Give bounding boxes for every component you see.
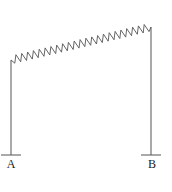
support-label-b: B (148, 157, 156, 171)
spring-frame-diagram: A B (0, 0, 172, 192)
zigzag-spring (11, 25, 151, 64)
support-label-a: A (7, 157, 16, 171)
diagram-svg: A B (0, 0, 172, 192)
